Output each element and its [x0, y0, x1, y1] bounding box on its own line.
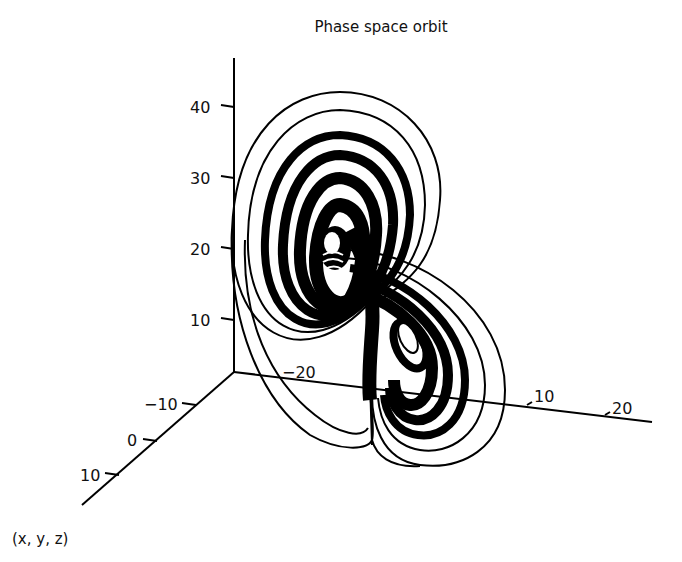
- y-tick-10: 10: [534, 387, 554, 406]
- z-tick-40: 40: [190, 98, 210, 117]
- x-tick-0: 0: [127, 431, 137, 450]
- z-tick-30: 30: [190, 169, 210, 188]
- x-tick-neg10: −10: [144, 395, 178, 414]
- phase-space-plot: 40 30 20 10 −10 0 10 −20 10 20: [0, 0, 682, 562]
- z-tick-10: 10: [190, 311, 210, 330]
- z-tick-20: 20: [190, 240, 210, 259]
- y-tick-neg20: −20: [282, 363, 316, 382]
- caption: (x, y, z): [12, 530, 68, 548]
- x-axis: [82, 372, 234, 505]
- attractor-orbit: [232, 92, 505, 466]
- x-tick-10: 10: [80, 466, 100, 485]
- y-tick-20: 20: [612, 399, 632, 418]
